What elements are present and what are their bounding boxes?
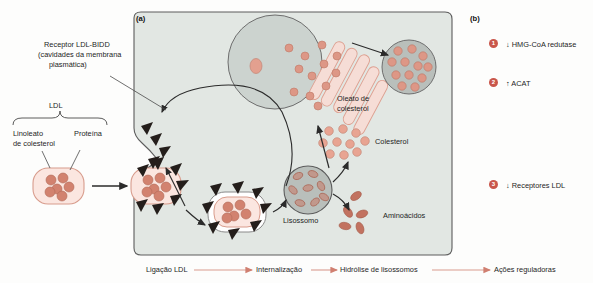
- flow-step-binding: Ligação LDL: [146, 265, 188, 274]
- linoleato-label-line1: Linoleato: [13, 129, 43, 138]
- panel-b-label-3: ↓ Receptores LDL: [506, 181, 565, 190]
- lysosome: [284, 166, 332, 214]
- ldl-bracket-label: LDL: [49, 101, 63, 110]
- flow-step-regulatory: Ações reguladoras: [494, 265, 556, 274]
- receptor-label-line2: (cavidades da membrana: [38, 50, 121, 59]
- figure-ldl-receptor-pathway: (a) (b) Receptor LDL-BIDD (cavidades da …: [0, 0, 593, 283]
- panel-b-number-3: 3: [489, 180, 498, 189]
- proteina-label: Proteína: [74, 129, 102, 138]
- panel-b-number-1: 1: [489, 39, 498, 48]
- oleato-label-line1: Oleato de: [337, 94, 369, 103]
- panel-b-number-2: 2: [489, 78, 498, 87]
- oleato-label-line2: colesterol: [337, 104, 369, 113]
- lisossomo-label: Lisossomo: [283, 216, 318, 225]
- ldl-bracket: [13, 111, 107, 125]
- receptor-label-line3: plasmática): [49, 60, 87, 69]
- panel-b-label-2: ↑ ACAT: [506, 79, 531, 88]
- colesterol-label: Colesterol: [375, 137, 408, 146]
- leader-proteina: [70, 150, 80, 170]
- panel-a-tag: (a): [136, 14, 145, 23]
- ldl-particle-free: [33, 168, 84, 204]
- receptor-label-line1: Receptor LDL-BIDD: [44, 40, 110, 49]
- nucleolus: [250, 59, 262, 74]
- flow-step-hydrolysis: Hidrólise de lisossomos: [340, 265, 418, 274]
- leader-linoleato: [42, 151, 50, 168]
- linoleato-label-line2: de colesterol: [13, 139, 55, 148]
- panel-b-label-1: ↓ HMG-CoA redutase: [506, 40, 576, 49]
- flow-step-internalization: Internalização: [256, 265, 302, 274]
- panel-b-tag: (b): [470, 14, 480, 23]
- cholesteryl-oleate-vesicle: [382, 40, 436, 94]
- aminoacidos-label: Aminoácidos: [383, 211, 425, 220]
